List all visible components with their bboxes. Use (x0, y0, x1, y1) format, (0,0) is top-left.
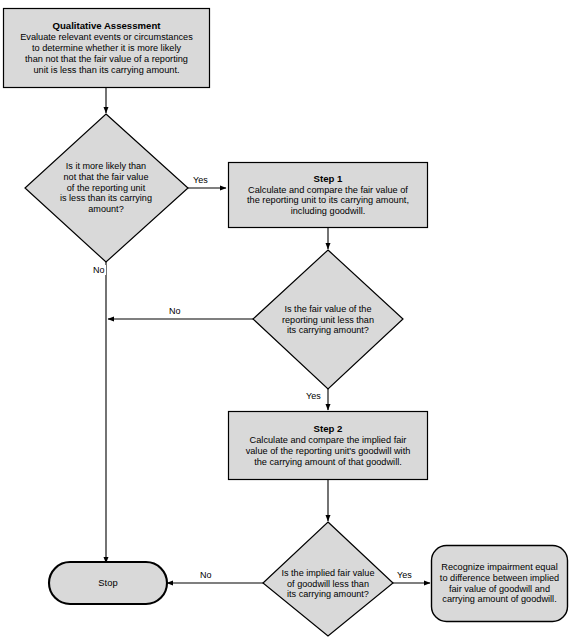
flowchart-shapes-layer: step 1 --> down the left spine into Stop… (0, 0, 578, 637)
shape-step-2 (229, 412, 428, 480)
shape-recognize-impairment (432, 546, 568, 622)
shape-decision-1 (25, 114, 188, 262)
shape-stop (49, 562, 167, 604)
flowchart-canvas: step 1 --> down the left spine into Stop… (0, 0, 578, 637)
shape-decision-3 (263, 522, 393, 636)
shape-decision-2 (253, 250, 403, 389)
shape-qualitative-assessment (4, 9, 210, 88)
shape-step-1 (229, 163, 428, 228)
